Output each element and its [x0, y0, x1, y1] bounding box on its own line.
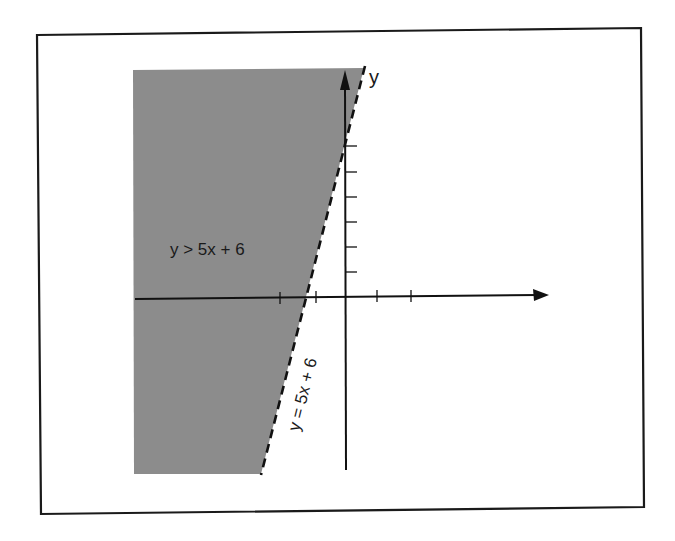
boundary-line-label: y = 5x + 6: [284, 356, 321, 433]
region-label: y > 5x + 6: [170, 240, 245, 259]
shaded-region: [133, 68, 364, 474]
x-axis-arrow-icon: [533, 289, 549, 301]
y-axis-ticks: [345, 146, 357, 272]
y-axis-label: y: [369, 66, 379, 88]
inequality-graph: y y > 5x + 6 y = 5x + 6: [0, 0, 675, 541]
